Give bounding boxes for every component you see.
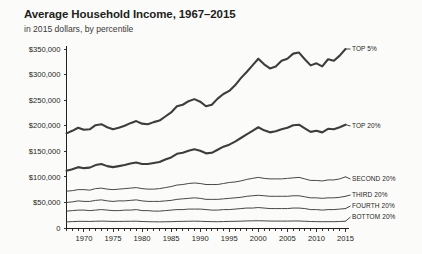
- x-tick-label: 2000: [250, 234, 267, 243]
- x-tick-label: 2005: [279, 234, 296, 243]
- y-tick-label: $100,000: [29, 173, 61, 182]
- series-label-third-20: THIRD 20%: [352, 191, 388, 198]
- series-leader-bottom-20: [346, 217, 351, 221]
- y-tick-label: 0: [56, 224, 60, 233]
- y-tick-label: $350,000: [29, 45, 61, 54]
- x-tick-label: 2015: [337, 234, 354, 243]
- y-tick-label: $150,000: [29, 147, 61, 156]
- series-line-top-20: [67, 125, 346, 171]
- series-leader-second-20: [346, 177, 351, 179]
- x-tick-label: 1990: [192, 234, 209, 243]
- y-tick-label: $300,000: [29, 70, 61, 79]
- x-tick-label: 1995: [221, 234, 238, 243]
- series-label-bottom-20: BOTTOM 20%: [352, 213, 396, 220]
- y-tick-label: $200,000: [29, 121, 61, 130]
- line-chart: 0$50,000$100,000$150,000$200,000$250,000…: [0, 0, 422, 254]
- series-label-top-20: TOP 20%: [352, 122, 381, 129]
- series-line-third-20: [67, 195, 346, 202]
- series-line-bottom-20: [67, 221, 346, 222]
- series-label-top-5: TOP 5%: [352, 45, 377, 52]
- series-label-second-20: SECOND 20%: [352, 175, 396, 182]
- series-label-fourth-20: FOURTH 20%: [352, 202, 395, 209]
- x-tick-label: 2010: [308, 234, 325, 243]
- series-line-second-20: [67, 177, 346, 191]
- x-tick-label: 1985: [163, 234, 180, 243]
- series-leader-top-20: [346, 125, 351, 126]
- x-tick-label: 1975: [105, 234, 122, 243]
- y-tick-label: $50,000: [33, 198, 60, 207]
- x-tick-label: 1970: [75, 234, 92, 243]
- series-leader-third-20: [346, 195, 351, 196]
- series-leader-fourth-20: [346, 206, 351, 209]
- y-tick-label: $250,000: [29, 96, 61, 105]
- x-tick-label: 1980: [134, 234, 151, 243]
- chart-container: Average Household Income, 1967–2015 in 2…: [0, 0, 422, 254]
- series-line-top-5: [67, 49, 346, 133]
- series-line-fourth-20: [67, 208, 346, 212]
